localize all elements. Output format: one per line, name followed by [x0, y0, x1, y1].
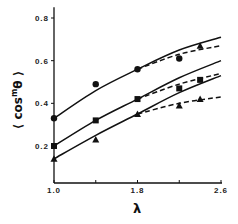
chart: 0.20.40.60.81.01.82.6λ⟨ cosmθ ⟩: [0, 0, 238, 224]
square-marker: [135, 96, 141, 102]
square-marker: [197, 77, 203, 83]
y-axis-title: ⟨ cosmθ ⟩: [10, 71, 25, 129]
curve-middle-solid: [54, 61, 221, 146]
triangle-marker: [176, 102, 183, 109]
x-axis-title: λ: [133, 201, 141, 216]
x-tick-label: 1.0: [47, 186, 61, 195]
curve-upper-solid: [54, 37, 221, 118]
circle-marker: [176, 55, 182, 61]
circle-marker: [134, 66, 140, 72]
data-markers: [51, 42, 204, 162]
square-marker: [93, 117, 99, 123]
axes: [51, 7, 222, 183]
square-marker: [176, 85, 182, 91]
y-axis-title-text: ⟨ cosmθ ⟩: [10, 71, 25, 129]
y-tick-label: 0.8: [35, 14, 49, 23]
circle-marker: [93, 81, 99, 87]
x-tick-label: 2.6: [214, 186, 228, 195]
x-tick-label: 1.8: [130, 186, 144, 195]
y-tick-label: 0.2: [35, 142, 49, 151]
curve-lower-solid: [54, 76, 221, 159]
y-tick-label: 0.4: [35, 99, 49, 108]
y-tick-label: 0.6: [35, 57, 49, 66]
